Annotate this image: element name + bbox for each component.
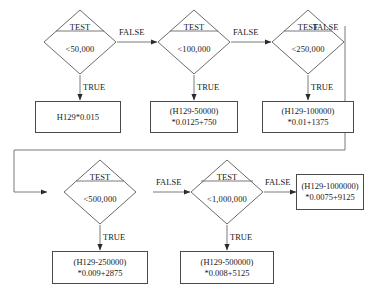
decision-4-condition: <500,000 (63, 194, 137, 204)
decision-2-condition: <100,000 (157, 44, 231, 54)
edge-label-true-5: TRUE (230, 232, 252, 242)
diamond-shape (271, 9, 345, 75)
result-box-4-line1: (H129-250000) (74, 257, 127, 268)
decision-node-2[interactable]: TEST <100,000 (157, 9, 231, 75)
decision-3-condition: <250,000 (271, 44, 345, 54)
diamond-shape (190, 159, 264, 225)
result-box-4[interactable]: (H129-250000) *0.009+2875 (52, 251, 148, 284)
diamond-shape (43, 9, 117, 75)
decision-node-5[interactable]: TEST <1,000,000 (190, 159, 264, 225)
diamond-shape (63, 159, 137, 225)
result-box-5-line1: (H129-500000) (201, 257, 254, 268)
decision-5-test-label: TEST (190, 172, 264, 182)
result-box-3[interactable]: (H129-100000) *0.01+1375 (262, 101, 354, 133)
result-box-4-line2: *0.009+2875 (74, 268, 127, 279)
result-box-3-line1: (H129-100000) (282, 106, 335, 117)
edge-label-true-4: TRUE (103, 232, 125, 242)
result-box-2-line1: (H129-50000) (170, 106, 219, 117)
decision-1-test-label: TEST (43, 22, 117, 32)
edge-label-false-1: FALSE (119, 27, 144, 37)
edge-label-true-2: TRUE (197, 82, 219, 92)
result-box-5-line2: *0.008+5125 (201, 268, 254, 279)
decision-node-3[interactable]: TEST <250,000 (271, 9, 345, 75)
edge-label-false-3: FALSE (313, 22, 338, 32)
result-box-1-line1: H129*0.015 (57, 112, 99, 123)
diamond-shape (157, 9, 231, 75)
result-box-3-line2: *0.01+1375 (282, 117, 335, 128)
edge-label-false-4: FALSE (156, 177, 181, 187)
edge-label-false-5: FALSE (265, 177, 290, 187)
decision-1-condition: <50,000 (43, 44, 117, 54)
decision-4-test-label: TEST (63, 172, 137, 182)
decision-node-4[interactable]: TEST <500,000 (63, 159, 137, 225)
edge-label-false-2: FALSE (233, 27, 258, 37)
result-box-1[interactable]: H129*0.015 (35, 101, 121, 133)
result-box-6[interactable]: (H129-1000000) *0.0075+9125 (296, 174, 364, 210)
edge-label-true-3: TRUE (311, 82, 333, 92)
decision-5-condition: <1,000,000 (190, 194, 264, 204)
result-box-2-line2: *0.0125+750 (170, 117, 219, 128)
decision-2-test-label: TEST (157, 22, 231, 32)
result-box-5[interactable]: (H129-500000) *0.008+5125 (180, 251, 274, 284)
result-box-6-line1: (H129-1000000) (301, 181, 358, 192)
flowchart-canvas: TEST <50,000 TEST <100,000 TEST <250,000… (0, 0, 368, 294)
edge-label-true-1: TRUE (83, 82, 105, 92)
result-box-2[interactable]: (H129-50000) *0.0125+750 (150, 101, 238, 133)
decision-node-1[interactable]: TEST <50,000 (43, 9, 117, 75)
result-box-6-line2: *0.0075+9125 (301, 192, 358, 203)
